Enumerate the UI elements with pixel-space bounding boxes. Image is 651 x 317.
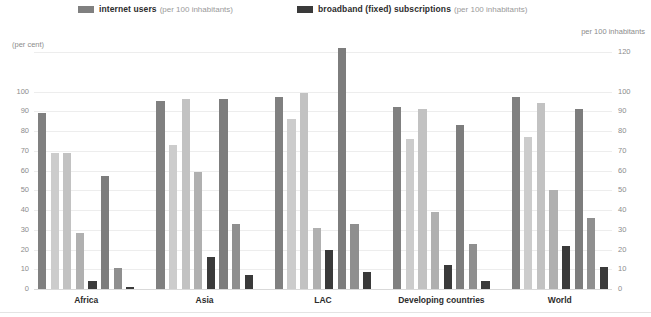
y-axis-tick-left: 20 bbox=[7, 246, 29, 254]
bar bbox=[325, 250, 333, 290]
legend-swatch-internet-users bbox=[78, 6, 94, 13]
bar bbox=[300, 93, 308, 289]
y-axis-tick-left: 60 bbox=[7, 167, 29, 175]
bar bbox=[393, 107, 401, 289]
legend-sublabel-broadband-fixed: (per 100 inhabitants) bbox=[454, 5, 527, 14]
y-axis-tick-left: 40 bbox=[7, 206, 29, 214]
x-axis-group-label: Asia bbox=[152, 295, 256, 305]
bar bbox=[431, 212, 439, 289]
x-axis-group-label: LAC bbox=[271, 295, 375, 305]
bar-group: Africa bbox=[34, 52, 138, 289]
y-axis-tick-right: 100 bbox=[618, 88, 642, 96]
y-axis-tick-left: 80 bbox=[7, 127, 29, 135]
y-axis-tick-right: 90 bbox=[618, 107, 642, 115]
bar bbox=[549, 190, 557, 289]
gridline bbox=[34, 289, 612, 290]
bar bbox=[287, 119, 295, 289]
bar bbox=[512, 97, 520, 289]
bar-group: Developing countries bbox=[389, 52, 493, 289]
x-axis-group-label: World bbox=[508, 295, 612, 305]
legend-item-broadband-fixed: broadband (fixed) subscriptions (per 100… bbox=[297, 4, 527, 14]
bar bbox=[469, 244, 477, 289]
bar bbox=[406, 139, 414, 289]
bar bbox=[575, 109, 583, 289]
bar-group: Asia bbox=[152, 52, 256, 289]
x-axis-group-label: Developing countries bbox=[389, 295, 493, 305]
bar bbox=[537, 103, 545, 289]
bar bbox=[207, 257, 215, 289]
y-axis-tick-right: 60 bbox=[618, 167, 642, 175]
y-axis-tick-right: 50 bbox=[618, 186, 642, 194]
bar bbox=[587, 218, 595, 289]
bar bbox=[338, 48, 346, 289]
legend-sublabel-internet-users: (per 100 inhabitants) bbox=[160, 5, 233, 14]
bar bbox=[156, 101, 164, 289]
footer-divider bbox=[0, 312, 651, 313]
y-axis-tick-right: 80 bbox=[618, 127, 642, 135]
bar bbox=[38, 113, 46, 289]
legend-label-broadband-fixed: broadband (fixed) subscriptions bbox=[318, 4, 451, 14]
bar bbox=[524, 137, 532, 289]
left-axis-caption: (per cent) bbox=[12, 40, 44, 49]
bar bbox=[232, 224, 240, 289]
y-axis-tick-right: 0 bbox=[618, 285, 642, 293]
y-axis-tick-right: 30 bbox=[618, 226, 642, 234]
bar bbox=[182, 99, 190, 289]
y-axis-tick-left: 100 bbox=[7, 88, 29, 96]
bar bbox=[481, 281, 489, 289]
bar bbox=[194, 172, 202, 289]
y-axis-tick-left: 0 bbox=[7, 285, 29, 293]
y-axis-tick-right: 40 bbox=[618, 206, 642, 214]
legend-item-internet-users: internet users (per 100 inhabitants) bbox=[78, 4, 233, 14]
legend-label-internet-users: internet users bbox=[99, 4, 157, 14]
chart-root: internet users (per 100 inhabitants) bro… bbox=[0, 0, 651, 317]
y-axis-tick-right: 10 bbox=[618, 265, 642, 273]
bar bbox=[88, 281, 96, 289]
bar bbox=[114, 268, 122, 289]
bar bbox=[313, 228, 321, 289]
y-axis-tick-left: 30 bbox=[7, 226, 29, 234]
y-axis-tick-right: 70 bbox=[618, 147, 642, 155]
bar bbox=[245, 275, 253, 289]
bar bbox=[101, 176, 109, 289]
bar bbox=[275, 97, 283, 289]
bar bbox=[363, 272, 371, 289]
y-axis-tick-right: 120 bbox=[618, 48, 642, 56]
x-axis-group-label: Africa bbox=[34, 295, 138, 305]
bar bbox=[350, 224, 358, 289]
chart-legend: internet users (per 100 inhabitants) bro… bbox=[0, 4, 651, 20]
bar bbox=[444, 265, 452, 289]
y-axis-tick-left: 70 bbox=[7, 147, 29, 155]
y-axis-tick-left: 10 bbox=[7, 265, 29, 273]
bar-group: World bbox=[508, 52, 612, 289]
y-axis-tick-right: 20 bbox=[618, 246, 642, 254]
y-axis-tick-left: 50 bbox=[7, 186, 29, 194]
bar bbox=[169, 145, 177, 289]
legend-swatch-broadband-fixed bbox=[297, 6, 313, 13]
right-axis-caption: per 100 inhabitants bbox=[581, 27, 645, 36]
bar bbox=[600, 267, 608, 289]
bar bbox=[76, 233, 84, 289]
bar-group: LAC bbox=[271, 52, 375, 289]
bar bbox=[126, 287, 134, 289]
bar bbox=[219, 99, 227, 289]
bar bbox=[562, 246, 570, 289]
plot-area: 1009080706050403020100120100908070605040… bbox=[34, 52, 612, 289]
y-axis-tick-left: 90 bbox=[7, 107, 29, 115]
bar bbox=[456, 125, 464, 289]
bar bbox=[51, 153, 59, 289]
bar bbox=[418, 109, 426, 289]
bar bbox=[63, 153, 71, 289]
